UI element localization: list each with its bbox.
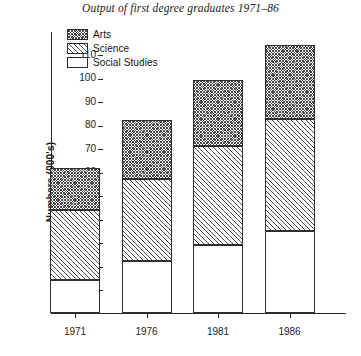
bar-segment-arts[interactable] — [193, 80, 243, 146]
bar-segment-social-studies[interactable] — [265, 231, 315, 313]
bar-segment-science[interactable] — [265, 119, 315, 231]
bar-stack[interactable] — [193, 31, 243, 313]
bar-stack[interactable] — [50, 31, 100, 313]
bar-segment-social-studies[interactable] — [122, 261, 172, 313]
bar-segment-arts[interactable] — [50, 168, 100, 209]
bar-segment-social-studies[interactable] — [193, 245, 243, 313]
bar-segment-science[interactable] — [50, 210, 100, 281]
legend-label: Science — [93, 43, 129, 54]
bar-segment-arts[interactable] — [122, 120, 172, 179]
x-axis-label: 1986 — [278, 326, 300, 337]
legend-swatch-social-studies — [67, 57, 88, 68]
legend-item[interactable]: Social Studies — [67, 57, 158, 68]
bar-segment-science[interactable] — [122, 179, 172, 261]
legend-swatch-science — [67, 43, 88, 54]
bar-segment-arts[interactable] — [265, 45, 315, 119]
legend-item[interactable]: Science — [67, 43, 158, 54]
legend-label: Social Studies — [93, 57, 158, 68]
chart-title: Output of first degree graduates 1971–86 — [0, 2, 361, 14]
x-tick-mark — [290, 313, 291, 318]
bar-segment-science[interactable] — [193, 146, 243, 245]
x-tick-mark — [75, 313, 76, 318]
x-tick-mark — [147, 313, 148, 318]
x-axis-label: 1976 — [135, 326, 157, 337]
x-tick-mark — [218, 313, 219, 318]
bar-segment-social-studies[interactable] — [50, 280, 100, 313]
x-axis-label: 1971 — [64, 326, 86, 337]
legend-label: Arts — [93, 29, 111, 40]
plot-area: Numbers (000's) 102030405060708090100110… — [51, 32, 346, 314]
x-axis-label: 1981 — [207, 326, 229, 337]
bar-stack[interactable] — [122, 31, 172, 313]
chart-legend: ArtsScienceSocial Studies — [67, 29, 158, 68]
legend-item[interactable]: Arts — [67, 29, 158, 40]
bar-stack[interactable] — [265, 31, 315, 313]
legend-swatch-arts — [67, 29, 88, 40]
